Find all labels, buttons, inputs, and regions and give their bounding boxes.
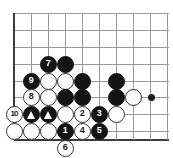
move-number-label: 9: [29, 76, 34, 85]
go-stone-black-move-7[interactable]: 7: [40, 56, 57, 73]
star-point-icon: [148, 94, 155, 101]
go-stone-black[interactable]: [108, 89, 125, 106]
board-line-horizontal-1: [14, 30, 169, 31]
go-stone-white[interactable]: [40, 89, 57, 106]
go-stone-black[interactable]: [57, 56, 74, 73]
go-stone-black-move-1[interactable]: 1: [57, 123, 74, 140]
go-stone-white[interactable]: [57, 106, 74, 123]
go-stone-white[interactable]: [23, 123, 40, 140]
move-number-label: 8: [29, 92, 34, 101]
go-stone-black[interactable]: [23, 106, 40, 123]
go-stone-black[interactable]: [74, 89, 91, 106]
go-board-diagram: 79810231456: [0, 0, 173, 158]
go-stone-white[interactable]: [6, 123, 23, 140]
board-line-vertical-7: [133, 13, 134, 140]
go-stone-white-move-8[interactable]: 8: [23, 89, 40, 106]
move-number-label: 1: [63, 126, 68, 135]
go-stone-black-move-5[interactable]: 5: [91, 123, 108, 140]
move-number-label: 3: [97, 109, 102, 118]
go-stone-black[interactable]: [74, 73, 91, 90]
go-stone-white-move-4[interactable]: 4: [74, 123, 91, 140]
go-stone-white[interactable]: [108, 106, 125, 123]
go-stone-white[interactable]: [125, 89, 142, 106]
move-number-label: 10: [11, 110, 18, 118]
go-stone-white[interactable]: [57, 73, 74, 90]
triangle-mark-icon: [27, 111, 35, 119]
go-stone-black[interactable]: [40, 106, 57, 123]
move-number-label: 5: [97, 126, 102, 135]
board-line-horizontal-0: [14, 13, 169, 14]
board-line-horizontal-2: [14, 47, 169, 48]
move-number-label: 7: [46, 59, 51, 68]
go-stone-black[interactable]: [108, 73, 125, 90]
move-number-label: 4: [80, 126, 85, 135]
go-stone-white-move-6[interactable]: 6: [57, 140, 74, 157]
go-stone-black-move-3[interactable]: 3: [91, 106, 108, 123]
go-stone-white-move-10[interactable]: 10: [6, 106, 23, 123]
go-stone-white[interactable]: [40, 73, 57, 90]
go-stone-black-move-9[interactable]: 9: [23, 73, 40, 90]
board-line-horizontal-3: [14, 64, 169, 65]
move-number-label: 2: [80, 109, 85, 118]
board-line-horizontal-8: [14, 139, 169, 141]
go-stone-white-move-2[interactable]: 2: [74, 106, 91, 123]
go-stone-white[interactable]: [40, 123, 57, 140]
board-line-vertical-8: [150, 13, 151, 140]
go-stone-black[interactable]: [57, 89, 74, 106]
triangle-mark-icon: [44, 111, 52, 119]
board-line-vertical-9: [167, 13, 168, 140]
move-number-label: 6: [63, 143, 68, 152]
